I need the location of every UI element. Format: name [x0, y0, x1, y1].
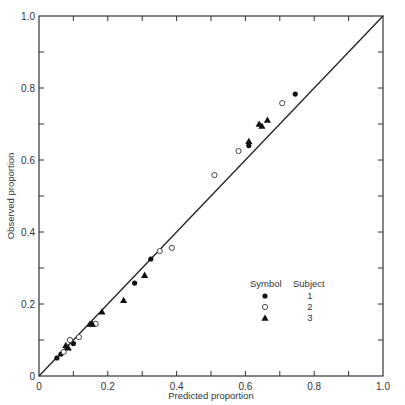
- y-tick-label: 1.0: [21, 11, 35, 22]
- legend-marker-filled-circle: [262, 293, 267, 298]
- data-point-subject-3: [141, 272, 148, 278]
- legend-marker-open-circle: [262, 304, 267, 309]
- legend-header-symbol: Symbol: [250, 278, 282, 289]
- x-tick-label: 0: [36, 381, 42, 392]
- data-point-subject-1: [293, 92, 298, 97]
- data-point-subject-2: [280, 101, 285, 106]
- y-axis-title: Observed proportion: [5, 153, 16, 240]
- legend-label: 2: [307, 301, 312, 312]
- data-point-subject-3: [120, 297, 127, 303]
- y-tick-label: 0.4: [21, 227, 35, 238]
- x-tick-label: 0.2: [101, 381, 115, 392]
- data-point-subject-3: [245, 138, 252, 144]
- data-point-subject-1: [54, 355, 59, 360]
- data-point-subject-1: [132, 281, 137, 286]
- scatter-chart: 00.20.40.60.81.000.20.40.60.81.0 Symbol …: [0, 0, 405, 405]
- legend-label: 1: [307, 290, 312, 301]
- x-tick-label: 1.0: [376, 381, 390, 392]
- legend-marker-filled-triangle: [261, 314, 268, 320]
- data-point-subject-1: [148, 256, 153, 261]
- data-points: [54, 92, 298, 361]
- y-tick-label: 0.8: [21, 83, 35, 94]
- data-point-subject-3: [264, 116, 271, 122]
- data-point-subject-2: [76, 335, 81, 340]
- data-point-subject-2: [157, 248, 162, 253]
- data-point-subject-2: [212, 173, 217, 178]
- x-tick-label: 0.8: [307, 381, 321, 392]
- data-point-subject-2: [236, 148, 241, 153]
- y-tick-label: 0.2: [21, 299, 35, 310]
- data-point-subject-2: [169, 245, 174, 250]
- y-tick-label: 0.6: [21, 155, 35, 166]
- y-tick-label: 0: [29, 371, 35, 382]
- x-axis-title: Predicted proportion: [168, 390, 254, 401]
- data-point-subject-2: [67, 337, 72, 342]
- legend-header-subject: Subject: [293, 278, 325, 289]
- data-point-subject-3: [98, 308, 105, 314]
- legend-label: 3: [307, 312, 312, 323]
- legend: Symbol Subject 123: [250, 278, 325, 323]
